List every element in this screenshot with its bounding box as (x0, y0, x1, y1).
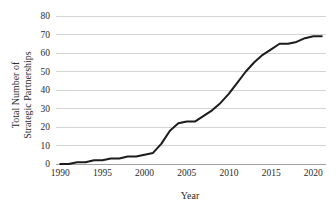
y-tick-label: 60 (41, 48, 51, 58)
x-tick-label: 2020 (304, 168, 323, 178)
series-line (60, 36, 322, 164)
x-tick-label: 2000 (135, 168, 154, 178)
y-tick-label: 20 (41, 122, 51, 132)
y-tick-label: 50 (41, 67, 51, 77)
x-axis-title: Year (181, 190, 200, 201)
y-axis-title-line1: Total Number of (10, 61, 21, 128)
y-tick-label: 0 (45, 159, 50, 169)
x-tick-labels: 1990199520002005201020152020 (51, 168, 323, 178)
y-tick-label: 80 (41, 11, 51, 21)
y-tick-label: 70 (41, 30, 51, 40)
line-chart: 01020304050607080 1990199520002005201020… (0, 0, 336, 204)
y-axis-title-line2: Strategic Partnerships (22, 51, 33, 139)
x-tick-label: 2005 (177, 168, 196, 178)
y-tick-label: 30 (41, 104, 51, 114)
x-tick-label: 2010 (219, 168, 238, 178)
y-tick-label: 40 (41, 85, 51, 95)
x-tick-label: 1995 (93, 168, 112, 178)
y-tick-labels: 01020304050607080 (41, 11, 51, 169)
x-tick-label: 2015 (262, 168, 281, 178)
gridlines (56, 16, 326, 164)
x-tick-label: 1990 (51, 168, 70, 178)
y-axis-title: Total Number of Strategic Partnerships (10, 51, 33, 139)
y-tick-label: 10 (41, 141, 51, 151)
chart-container: 01020304050607080 1990199520002005201020… (0, 0, 336, 204)
data-series (60, 36, 322, 164)
